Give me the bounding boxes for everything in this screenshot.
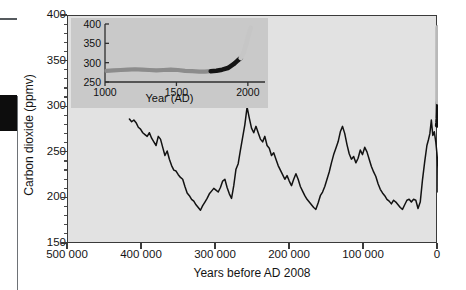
- data-series-line: [241, 28, 251, 58]
- y-tick-label: 350: [20, 55, 66, 67]
- co2-ice-core-figure: Carbon dioxide (ppmv) 150200250300350400…: [0, 0, 466, 290]
- data-series-line: [211, 58, 241, 71]
- inset-y-tick-label: 350: [71, 38, 101, 49]
- y-tick-label: 150: [20, 237, 66, 249]
- data-series-line: [129, 107, 438, 210]
- x-tick-label: 0: [434, 248, 440, 260]
- y-tick-label: 200: [20, 191, 66, 203]
- data-series-line: [106, 69, 210, 71]
- inset-panel: 250300350400100015002000 Year (AD): [71, 18, 268, 108]
- inset-x-axis-title: Year (AD): [71, 92, 268, 104]
- data-series-line: [437, 102, 438, 126]
- y-tick-label: 400: [20, 9, 66, 21]
- inset-y-tick-label: 400: [71, 19, 101, 30]
- inset-y-tick-label: 300: [71, 58, 101, 69]
- x-tick-label: 400 000: [120, 248, 162, 260]
- x-tick-label: 100 000: [342, 248, 384, 260]
- y-tick-label: 250: [20, 146, 66, 158]
- x-tick-label: 300 000: [194, 248, 236, 260]
- y-tick-label: 300: [20, 100, 66, 112]
- x-axis-title: Years before AD 2008: [67, 266, 437, 280]
- x-tick-label: 200 000: [268, 248, 310, 260]
- x-tick-label: 500 000: [46, 248, 88, 260]
